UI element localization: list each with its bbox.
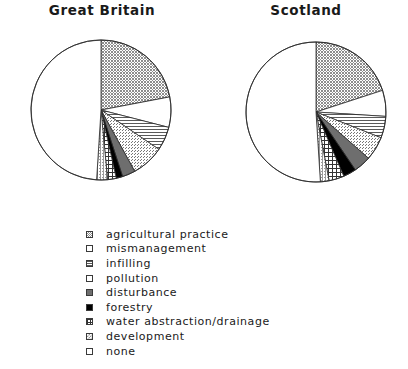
legend-item[interactable]: forestry: [86, 300, 386, 315]
pie-slice[interactable]: [31, 40, 101, 180]
legend-swatch-development: [86, 333, 93, 340]
legend: agricultural practicemismanagementinfill…: [86, 227, 386, 358]
legend-item[interactable]: none: [86, 344, 386, 359]
pie-chart-figure: Great Britain Scotland agricultural prac…: [0, 0, 408, 369]
legend-item-label: water abstraction/drainage: [106, 316, 270, 327]
legend-item[interactable]: disturbance: [86, 285, 386, 300]
legend-item-label: mismanagement: [106, 243, 206, 254]
legend-item-label: none: [106, 346, 136, 357]
legend-item-label: development: [106, 331, 185, 342]
legend-item-label: agricultural practice: [106, 229, 229, 240]
legend-item-label: infilling: [106, 258, 151, 269]
legend-swatch-none: [86, 348, 93, 355]
legend-item[interactable]: mismanagement: [86, 242, 386, 257]
legend-swatch-forestry: [86, 304, 93, 311]
legend-swatch-mismanagement: [86, 245, 93, 252]
legend-item[interactable]: water abstraction/drainage: [86, 315, 386, 330]
legend-item[interactable]: development: [86, 329, 386, 344]
pie-slice[interactable]: [246, 42, 320, 182]
legend-item-label: disturbance: [106, 287, 177, 298]
legend-swatch-water-abstraction-drainage: [86, 318, 93, 325]
legend-swatch-pollution: [86, 275, 93, 282]
legend-item[interactable]: agricultural practice: [86, 227, 386, 242]
legend-swatch-infilling: [86, 260, 93, 267]
pie-scotland: [204, 24, 408, 200]
chart-title-great-britain: Great Britain: [0, 2, 204, 18]
legend-swatch-agricultural-practice: [86, 231, 93, 238]
legend-item-label: forestry: [106, 302, 153, 313]
legend-item[interactable]: infilling: [86, 256, 386, 271]
legend-item[interactable]: pollution: [86, 271, 386, 286]
chart-title-scotland: Scotland: [204, 2, 408, 18]
legend-item-label: pollution: [106, 273, 159, 284]
legend-swatch-disturbance: [86, 289, 93, 296]
pie-great-britain: [0, 24, 204, 200]
